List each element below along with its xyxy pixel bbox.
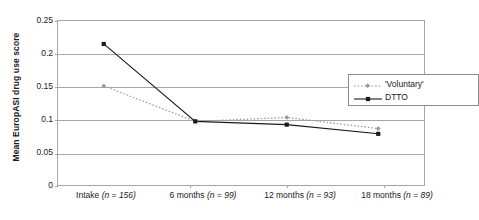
x-tick-mark — [287, 185, 288, 188]
x-tick-label-name: Intake — [76, 190, 99, 200]
x-tick-label-6-months: 6 months (n = 99) — [170, 190, 237, 201]
x-tick-label-n: (n = 89) — [403, 190, 433, 200]
data-point — [376, 126, 381, 131]
y-tick-label: 0.25 — [23, 16, 53, 25]
x-tick-label-n: (n = 99) — [207, 190, 237, 200]
legend-row-voluntary: 'Voluntary' — [353, 77, 478, 90]
y-tick-label: 0.1 — [23, 115, 53, 124]
legend-label-dtto: DTTO — [383, 91, 408, 103]
plot-area: 'Voluntary' DTTO — [57, 20, 425, 186]
x-tick-label-n: (n = 93) — [306, 190, 336, 200]
markers-dtto — [102, 42, 381, 136]
chart-legend: 'Voluntary' DTTO — [348, 74, 479, 106]
y-axis-tick-labels: 0.25 0.2 0.15 0.1 0.05 0 — [22, 0, 53, 220]
y-tick-label: 0 — [23, 181, 53, 190]
y-tick-label: 0.2 — [23, 49, 53, 58]
y-tick-label: 0.05 — [23, 148, 53, 157]
legend-key-dtto-icon — [353, 91, 383, 103]
y-tick-label: 0.15 — [23, 82, 53, 91]
line-dtto — [104, 44, 379, 134]
x-tick-mark — [384, 185, 385, 188]
data-point — [376, 132, 380, 136]
data-point — [101, 84, 106, 89]
x-tick-label-12-months: 12 months (n = 93) — [264, 190, 336, 201]
x-tick-label-name: 6 months — [170, 190, 205, 200]
legend-label-voluntary: 'Voluntary' — [383, 78, 424, 90]
y-tick-mark — [55, 186, 58, 187]
x-tick-label-name: 18 months — [361, 190, 401, 200]
legend-row-dtto: DTTO — [353, 90, 478, 103]
x-tick-label-name: 12 months — [264, 190, 304, 200]
x-tick-label-n: (n = 156) — [102, 190, 136, 200]
data-point — [284, 115, 289, 120]
data-point — [193, 119, 197, 123]
x-tick-label-18-months: 18 months (n = 89) — [361, 190, 433, 201]
data-point — [102, 42, 106, 46]
markers-voluntary — [101, 84, 380, 131]
x-tick-mark — [190, 185, 191, 188]
x-tick-label-intake: Intake (n = 156) — [76, 190, 136, 201]
line-voluntary — [104, 86, 379, 129]
data-point — [285, 123, 289, 127]
x-axis-tick-labels: Intake (n = 156) 6 months (n = 99) 12 mo… — [57, 190, 425, 206]
legend-key-voluntary-icon — [353, 78, 383, 90]
